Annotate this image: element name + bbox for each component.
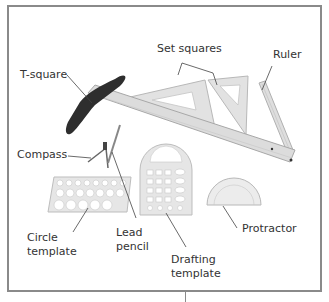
label-circle-template-line1: Circle (27, 231, 58, 244)
compass (88, 142, 108, 168)
label-t-square: T-square (20, 68, 67, 81)
label-lead-pencil-line2: pencil (116, 240, 149, 253)
drafting-template-illustration (140, 144, 192, 215)
label-ruler: Ruler (273, 48, 301, 61)
label-drafting-template-line2: template (171, 267, 221, 280)
label-lead-pencil-line1: Lead (116, 226, 142, 239)
label-set-squares: Set squares (157, 42, 222, 55)
label-compass: Compass (17, 148, 67, 161)
circle-template-illustration (48, 177, 131, 212)
label-protractor: Protractor (242, 222, 297, 235)
label-circle-template-line2: template (27, 245, 77, 258)
label-drafting-template-line1: Drafting (171, 253, 216, 266)
protractor-illustration (207, 178, 261, 205)
